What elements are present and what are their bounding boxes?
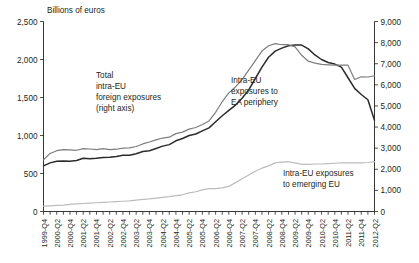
x-axis-tick-label: 2002-Q2 (106, 219, 115, 247)
left-axis-tick-label: 0 (33, 208, 38, 217)
x-axis-tick-label: 2000-Q2 (53, 219, 62, 247)
x-axis-tick-label: 1999-Q4 (40, 219, 49, 247)
chart-container: Billions of euros 05001,0001,5002,0002,5… (0, 0, 419, 263)
x-axis-tick-label: 2005-Q4 (198, 219, 207, 247)
ann-total: (right axis) (96, 104, 134, 113)
left-axis-tick-label: 2,500 (17, 18, 38, 27)
x-axis-tick-label: 2008-Q2 (265, 219, 274, 247)
right-axis-tick-label: 7,000 (381, 60, 402, 69)
right-axis-tick-label: 5,000 (381, 102, 402, 111)
right-axis-tick-label: 4,000 (381, 123, 402, 132)
x-axis-tick-label: 2007-Q4 (251, 219, 260, 247)
x-axis-tick-label: 2008-Q4 (278, 219, 287, 247)
right-axis-tick-label: 9,000 (381, 18, 402, 27)
left-axis-tick-label: 2,000 (17, 56, 38, 65)
unit-label: Billions of euros (47, 6, 105, 15)
x-axis-tick-label: 2003-Q4 (145, 219, 154, 247)
right-axis-tick-label: 3,000 (381, 144, 402, 153)
x-axis-tick-label: 2000-Q4 (66, 219, 75, 247)
right-axis-tick-label: 6,000 (381, 81, 402, 90)
ann-total: intra-EU (96, 82, 126, 91)
ann-total: Total (96, 71, 113, 80)
right-axis-tick-label: 1,000 (381, 186, 402, 195)
x-axis-tick-label: 2005-Q2 (185, 219, 194, 247)
ann-periphery: exposures to (231, 87, 278, 96)
x-axis-tick-label: 2011-Q4 (357, 219, 366, 247)
x-axis-tick-label: 2007-Q2 (238, 219, 247, 247)
x-axis-tick-label: 2004-Q2 (159, 219, 168, 247)
x-axis-tick-label: 2009-Q2 (291, 219, 300, 247)
x-axis-tick-label: 2001-Q4 (92, 219, 101, 247)
ann-periphery: EA periphery (231, 98, 279, 107)
x-axis-tick-label: 2009-Q4 (304, 219, 313, 247)
left-axis-tick-label: 500 (24, 170, 38, 179)
x-axis-tick-label: 2010-Q2 (318, 219, 327, 247)
x-axis-tick-label: 2003-Q2 (132, 219, 141, 247)
x-axis-tick-label: 2004-Q4 (172, 219, 181, 247)
x-axis-tick-label: 2011-Q2 (344, 219, 353, 247)
x-axis-tick-label: 2010-Q4 (331, 219, 340, 247)
left-axis-tick-label: 1,000 (17, 132, 38, 141)
right-axis-tick-label: 2,000 (381, 165, 402, 174)
x-axis-tick-label: 2006-Q2 (212, 219, 221, 247)
ann-emerging: to emerging EU (283, 180, 340, 189)
left-axis-tick-label: 1,500 (17, 94, 38, 103)
ann-emerging: Intra-EU exposures (283, 169, 354, 178)
ann-total: foreign exposures (96, 93, 161, 102)
right-axis-tick-label: 8,000 (381, 39, 402, 48)
right-axis-tick-label: 0 (381, 208, 386, 217)
line-chart: Billions of euros 05001,0001,5002,0002,5… (0, 0, 419, 263)
x-axis-tick-label: 2001-Q2 (79, 219, 88, 247)
x-axis-tick-label: 2012-Q2 (371, 219, 380, 247)
x-axis-tick-label: 2006-Q4 (225, 219, 234, 247)
ann-periphery: Intra-EU (231, 76, 262, 85)
chart-background (0, 0, 419, 263)
x-axis-tick-label: 2002-Q4 (119, 219, 128, 247)
